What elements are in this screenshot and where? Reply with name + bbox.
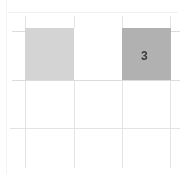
- grid-horizontal-line-2: [12, 80, 180, 81]
- grid-horizontal-line-0: [8, 12, 178, 13]
- grid-canvas: 3: [0, 0, 187, 174]
- cell-middle-empty[interactable]: [74, 28, 122, 80]
- cell-left-shaded[interactable]: [25, 28, 74, 80]
- grid-vertical-line-0: [6, 0, 7, 174]
- grid-horizontal-line-3: [10, 128, 180, 129]
- cell-right-shaded-label: 3: [141, 50, 148, 62]
